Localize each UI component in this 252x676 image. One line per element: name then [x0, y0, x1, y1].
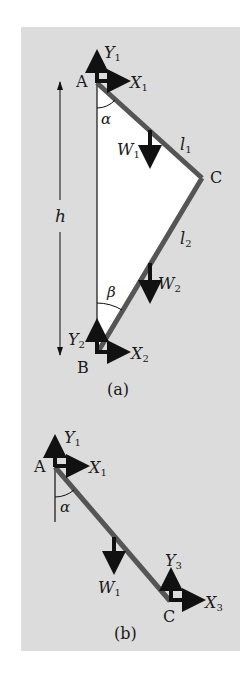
caption-b: (b) — [114, 624, 137, 643]
two-bar-statics-figure: h α β Y1 X1 A W1 l1 C l2 W2 Y2 X2 B (a) — [0, 0, 252, 676]
point-b-label: B — [77, 358, 89, 377]
point-a-label-b: A — [33, 457, 46, 476]
h-label: h — [55, 206, 66, 226]
point-c-label: C — [210, 168, 222, 187]
point-c-label-b: C — [163, 607, 175, 626]
alpha-label: α — [101, 110, 111, 128]
point-a-label: A — [75, 72, 88, 91]
alpha-label-b: α — [60, 498, 70, 516]
caption-a: (a) — [107, 380, 129, 399]
beta-label: β — [106, 283, 116, 301]
